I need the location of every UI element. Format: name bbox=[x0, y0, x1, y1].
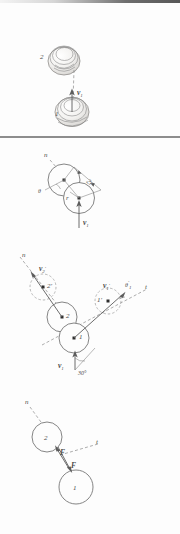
panel4-ball-two-label: 2 bbox=[44, 434, 48, 442]
panel3-ball-one-prime-center bbox=[107, 300, 110, 303]
panel3-theta-prime-label: θ′1 bbox=[125, 280, 132, 290]
panel2-theta-label: θ bbox=[38, 188, 41, 194]
panel3-v2-prime-arrow bbox=[31, 271, 63, 317]
panel3-v1-prime-mark: ′ bbox=[109, 283, 111, 288]
panel4-tangent-label: t bbox=[96, 438, 99, 446]
panel1-ball-two-label: 2 bbox=[40, 53, 44, 61]
panel4-ball-one-label: 1 bbox=[73, 484, 77, 492]
panel4-normal-label: n bbox=[25, 398, 29, 406]
ball-two-graphic bbox=[48, 46, 80, 75]
panel3-normal-label: n bbox=[22, 251, 26, 259]
panel3-v2-prime-mark: ′ bbox=[45, 266, 47, 271]
panel1-v1-subscript: 1 bbox=[80, 93, 83, 98]
panel2-normal-label: n bbox=[44, 151, 48, 159]
panel2-v1-label: v1 bbox=[83, 218, 89, 228]
panel-4-canvas: n 2 1 t F F bbox=[0, 385, 180, 534]
panel3-v2-prime-label: v2′ bbox=[39, 264, 47, 274]
panel2-v1-subscript: 1 bbox=[86, 223, 89, 228]
panel1-ball-one-label: 1 bbox=[55, 110, 59, 118]
panel3-ball-one-prime-label: 1' bbox=[97, 296, 103, 304]
panel3-ball-one-label: 1 bbox=[79, 333, 83, 341]
panel2-radius-label: r bbox=[66, 194, 69, 202]
panel3-tangent-label: t bbox=[145, 283, 148, 291]
panel-impact-geometry: n θ r 2r bbox=[0, 140, 180, 245]
panel-divider-1 bbox=[0, 136, 180, 138]
panel-3-canvas: n t 2' 1' 2 1 v2′ bbox=[0, 245, 180, 385]
panel3-ball-two-label: 2 bbox=[66, 312, 70, 320]
panel-2-canvas: n θ r 2r bbox=[0, 140, 180, 245]
physics-figure: 2 1 v1 n bbox=[0, 0, 180, 534]
panel-1-canvas: 2 1 v1 bbox=[0, 0, 180, 136]
panel3-v1-subscript: 1 bbox=[61, 366, 64, 371]
panel-after-impact-velocities: n t 2' 1' 2 1 v2′ bbox=[0, 245, 180, 385]
panel-before-impact-pictorial: 2 1 v1 bbox=[0, 0, 180, 136]
panel1-trajectory-line bbox=[73, 70, 74, 101]
panel3-thirty-degree-label: 30° bbox=[77, 370, 87, 376]
panel3-v1-label: v1 bbox=[58, 361, 64, 371]
panel3-v1-prime-label: v1′ bbox=[103, 281, 111, 291]
panel1-v1-label: v1 bbox=[77, 88, 83, 98]
panel3-ball-two-prime-label: 2' bbox=[47, 282, 53, 290]
panel3-theta-prime-sub: 1 bbox=[129, 285, 132, 290]
panel4-force-on-one-label: F bbox=[71, 461, 76, 470]
panel-impulse-force-pair: n 2 1 t F F bbox=[0, 385, 180, 534]
panel3-v1-arrow bbox=[72, 351, 77, 371]
panel4-tangent-axis bbox=[60, 444, 98, 455]
